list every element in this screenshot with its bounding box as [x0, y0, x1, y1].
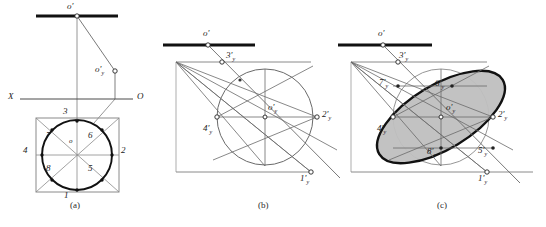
- point-5y-marker-c: [491, 146, 495, 150]
- o-prime-marker-c: [381, 43, 385, 47]
- label-axis-x: X: [8, 92, 14, 101]
- point-8y-marker-c: [439, 146, 443, 150]
- point-6-marker: [100, 128, 103, 131]
- label-point-6y-c: 6'y: [435, 79, 444, 90]
- point-1-marker: [75, 188, 78, 191]
- o-prime-marker-a: [75, 14, 79, 18]
- apex-ray-1-b: [176, 62, 317, 117]
- label-point-4y-c: 4'y: [377, 124, 386, 135]
- aux-intersection-b: [238, 78, 241, 81]
- point-7y-marker-c: [396, 84, 400, 88]
- point-6y-marker-c: [450, 84, 454, 88]
- label-point-5y-c: 5'y: [478, 146, 487, 157]
- label-point-3y-b: 3'y: [226, 51, 235, 62]
- label-point-4: 4: [23, 146, 28, 155]
- point-4-marker: [40, 153, 43, 156]
- point-3-marker: [75, 119, 78, 122]
- panel-a-geometry: [20, 14, 133, 192]
- label-point-3y-c: 3'y: [399, 51, 408, 62]
- apex-ray-4-b: [176, 62, 265, 166]
- label-point-1y-b: 1'y: [300, 174, 309, 185]
- caption-panel-c: (c): [437, 201, 447, 210]
- point-8-marker: [50, 178, 53, 181]
- point-oy-marker-c: [439, 115, 443, 119]
- ray-oy-to-plan: [94, 99, 115, 123]
- label-point-oy-c: o'y: [446, 103, 455, 114]
- label-o-prime-a: o': [67, 2, 73, 11]
- point-2y-marker-b: [315, 115, 319, 119]
- point-2-marker: [110, 153, 113, 156]
- point-2y-marker-c: [491, 115, 495, 119]
- caption-panel-b: (b): [258, 201, 269, 210]
- label-point-5: 5: [88, 164, 93, 173]
- label-o-prime-y-a: o'y: [95, 65, 104, 76]
- label-point-2y-b: 2'y: [322, 110, 331, 121]
- label-point-2: 2: [121, 146, 126, 155]
- label-point-1: 1: [64, 191, 69, 200]
- label-point-7y-c: 7'y: [379, 78, 388, 89]
- label-point-1y-c: 1'y: [478, 174, 487, 185]
- apex-ray-3-b: [176, 62, 337, 150]
- point-5-marker: [100, 178, 103, 181]
- panel-b-geometry: [163, 43, 340, 178]
- point-oy-marker-b: [263, 115, 267, 119]
- label-point-oy-b: o'y: [268, 103, 277, 114]
- label-point-4y-b: 4'y: [203, 124, 212, 135]
- o-prime-y-marker-a: [113, 69, 117, 73]
- caption-panel-a: (a): [70, 201, 80, 210]
- point-4y-marker-c: [391, 115, 395, 119]
- point-1y-marker-b: [309, 170, 313, 174]
- point-4y-marker-b: [215, 115, 219, 119]
- point-3y-marker-b: [220, 60, 224, 64]
- label-point-8y-c: 8'y: [427, 147, 436, 158]
- label-o-prime-b: o': [203, 29, 209, 38]
- label-point-6: 6: [88, 131, 93, 140]
- figure-root: o' o'y X O 3 7 6 o 4 2 8 5 1 o' 3'y o'y …: [0, 0, 546, 227]
- label-axis-o: O: [137, 92, 144, 101]
- o-prime-marker-b: [206, 43, 210, 47]
- label-point-3: 3: [63, 107, 68, 116]
- ray-o-to-oy: [77, 16, 115, 71]
- label-point-2y-c: 2'y: [498, 110, 507, 121]
- label-o-prime-c: o': [378, 29, 384, 38]
- label-point-8: 8: [46, 164, 51, 173]
- label-point-o: o: [69, 138, 73, 145]
- label-point-7: 7: [46, 131, 51, 140]
